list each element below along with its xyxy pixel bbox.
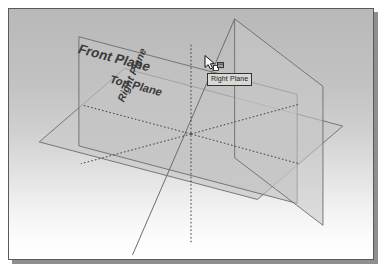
screenshot-root: Front Plane Top Plane Right Plane xyxy=(0,0,390,276)
right-plane-lower-edge xyxy=(132,225,322,255)
reference-planes-scene[interactable]: Front Plane Top Plane Right Plane xyxy=(9,9,373,259)
cad-viewport[interactable]: Front Plane Top Plane Right Plane xyxy=(8,8,374,260)
